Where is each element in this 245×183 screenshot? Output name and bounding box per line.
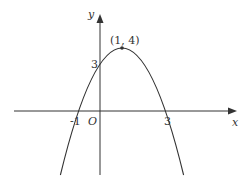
x-axis-label: x <box>232 116 239 129</box>
y-intercept-label: 3 <box>91 58 98 71</box>
parabola-diagram: y x O (1, 4) 3 -1 3 <box>0 0 245 183</box>
origin-label: O <box>88 115 97 128</box>
x-axis-arrow-icon <box>228 108 237 115</box>
y-axis-label: y <box>87 8 95 21</box>
root-left-label: -1 <box>70 115 81 128</box>
vertex-label: (1, 4) <box>110 34 140 47</box>
root-right-label: 3 <box>164 115 171 128</box>
y-axis-arrow-icon <box>97 14 104 23</box>
